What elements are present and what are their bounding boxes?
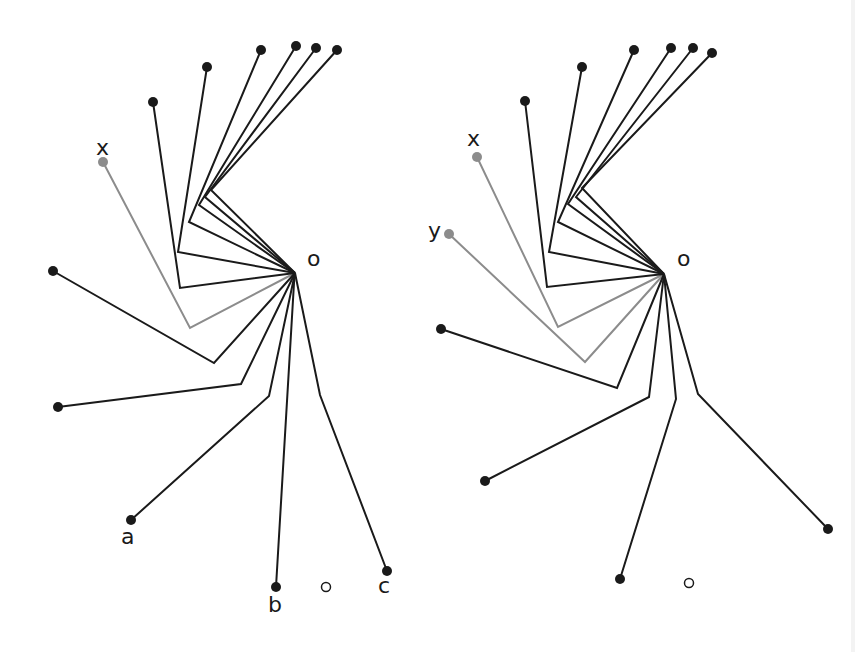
endpoint-dot-1 [577, 62, 587, 72]
point-label-a: a [121, 524, 134, 549]
open-circle-marker [685, 579, 694, 588]
endpoint-dot-0 [520, 96, 530, 106]
endpoint-dot-4 [311, 43, 321, 53]
endpoint-dot-3 [666, 43, 676, 53]
endpoint-dot-2 [629, 45, 639, 55]
endpoint-dot-7 [444, 229, 454, 239]
origin-label: o [677, 246, 690, 271]
endpoint-dot-8 [436, 324, 446, 334]
branching-diagram: xabco xyo [0, 0, 855, 652]
endpoint-dot-6 [472, 152, 482, 162]
page-edge-strip [851, 0, 855, 652]
endpoint-dot-5 [332, 45, 342, 55]
endpoint-dot-10 [615, 574, 625, 584]
endpoint-dot-9 [480, 476, 490, 486]
open-circle-marker [322, 583, 331, 592]
point-label-x: x [96, 135, 109, 160]
endpoint-dot-0 [148, 97, 158, 107]
right-panel: xyo [428, 43, 833, 588]
branch-path-11 [295, 273, 387, 571]
point-label-y: y [428, 218, 441, 243]
endpoint-dot-11 [823, 524, 833, 534]
branch-path-1 [549, 67, 664, 274]
point-label-b: b [268, 592, 282, 617]
point-label-x: x [467, 126, 480, 151]
endpoint-dot-2 [256, 45, 266, 55]
left-panel: xabco [48, 41, 392, 617]
endpoint-dot-8 [53, 402, 63, 412]
endpoint-dot-4 [688, 43, 698, 53]
branch-path-11 [664, 274, 828, 529]
branch-path-10 [620, 274, 676, 579]
endpoint-dot-10 [271, 582, 281, 592]
origin-label: o [307, 246, 320, 271]
branch-path-9 [131, 273, 295, 520]
endpoint-dot-3 [291, 41, 301, 51]
branch-path-6 [477, 157, 664, 327]
endpoint-dot-7 [48, 266, 58, 276]
point-label-c: c [378, 573, 390, 598]
branch-path-1 [178, 67, 295, 273]
endpoint-dot-1 [202, 62, 212, 72]
endpoint-dot-5 [707, 48, 717, 58]
